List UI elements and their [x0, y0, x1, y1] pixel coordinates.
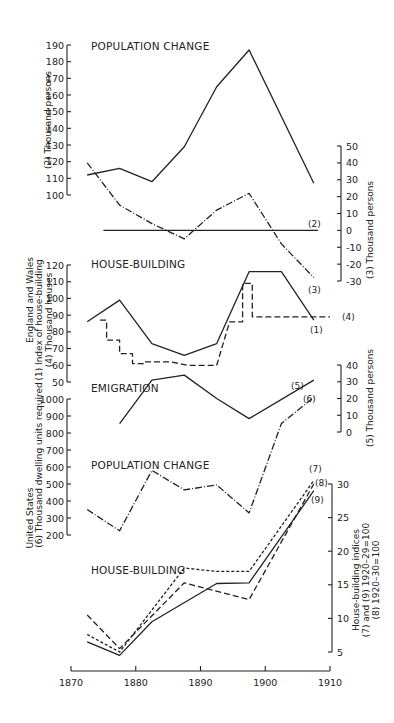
axis-label-4: (4) Thousand houses: [44, 273, 54, 368]
axis-label-7-9: (7) and (9) 1920–29=100: [361, 522, 371, 637]
y-tick-label: 190: [46, 40, 64, 51]
y-tick-label: 180: [46, 56, 64, 67]
series-label-4: (4): [342, 312, 355, 322]
series-label-9: (9): [311, 495, 324, 505]
x-tick-label: 1900: [253, 677, 277, 688]
series-label-7: (7): [309, 464, 322, 474]
y-tick-label: 30: [346, 174, 358, 185]
x-tick-label: 1880: [124, 677, 148, 688]
panel-title-house-building-ew: HOUSE-BUILDING: [91, 258, 185, 270]
y-tick-label: 0: [346, 225, 352, 236]
y-tick-label: 300: [46, 513, 64, 524]
panel-title-population-change-ew: POPULATION CHANGE: [91, 40, 209, 52]
y-tick-label: 20: [346, 393, 358, 404]
y-tick-label: 100: [46, 190, 64, 201]
y-tick-label: 30: [346, 376, 358, 387]
y-tick-label: 30: [337, 479, 349, 490]
panel-title-house-building-us: HOUSE-BUILDING: [91, 564, 185, 576]
series-label-8: (8): [315, 478, 328, 488]
y-tick-label: 800: [46, 428, 64, 439]
y-tick-label: 900: [46, 411, 64, 422]
series-label-5: (5): [291, 381, 304, 391]
axes-group: 100110120130140150160170180190-30-20-100…: [40, 40, 362, 689]
x-tick-label: 1910: [318, 677, 342, 688]
y-tick-label: 10: [337, 613, 349, 624]
y-tick-label: 400: [46, 496, 64, 507]
y-tick-label: 40: [346, 360, 358, 371]
y-tick-label: 120: [46, 260, 64, 271]
series-line-1: [87, 272, 314, 356]
axis-label-3: (3) Thousand persons: [365, 181, 375, 279]
series-label-1: (1): [310, 325, 323, 335]
axis-label-5: (5) Thousand persons: [365, 349, 375, 447]
y-tick-label: 50: [52, 377, 64, 388]
chart-canvas: 100110120130140150160170180190-30-20-100…: [0, 0, 394, 723]
y-tick-label: 25: [337, 512, 349, 523]
panel-title-population-change-us: POPULATION CHANGE: [91, 459, 209, 471]
y-tick-label: -30: [346, 276, 362, 287]
y-tick-label: 10: [346, 208, 358, 219]
axis-label-1: (1) Index of house-building: [34, 259, 44, 380]
labels-group: POPULATION CHANGE HOUSE-BUILDING EMIGRAT…: [25, 40, 381, 637]
y-tick-label: 5: [337, 647, 343, 658]
y-tick-label: 0: [346, 427, 352, 438]
x-tick-label: 1870: [59, 677, 83, 688]
panel-title-emigration: EMIGRATION: [91, 382, 159, 394]
axis-label-8: (8) 1920–30=100: [371, 540, 381, 619]
axis-label-2: (2) Thousand persons: [43, 71, 53, 169]
y-tick-label: -10: [346, 242, 362, 253]
y-tick-label: 110: [46, 173, 64, 184]
y-tick-label: 500: [46, 479, 64, 490]
series-label-2: (2): [308, 219, 321, 229]
y-tick-label: 700: [46, 445, 64, 456]
series-line-4: [100, 283, 330, 365]
y-tick-label: -20: [346, 259, 362, 270]
y-tick-label: 15: [337, 579, 349, 590]
series-label-6: (6): [303, 394, 316, 404]
y-tick-label: 200: [46, 530, 64, 541]
x-tick-label: 1890: [188, 677, 212, 688]
series-label-3: (3): [308, 285, 321, 295]
y-tick-label: 600: [46, 462, 64, 473]
y-tick-label: 20: [346, 191, 358, 202]
y-tick-label: 40: [346, 157, 358, 168]
y-tick-label: 10: [346, 410, 358, 421]
y-tick-label: 50: [346, 141, 358, 152]
axis-label-house-indices: House-building indices: [351, 529, 361, 631]
axis-label-6: (6) Thousand dwelling units required: [34, 382, 44, 548]
series-line-2: [87, 50, 314, 183]
y-tick-label: 20: [337, 546, 349, 557]
